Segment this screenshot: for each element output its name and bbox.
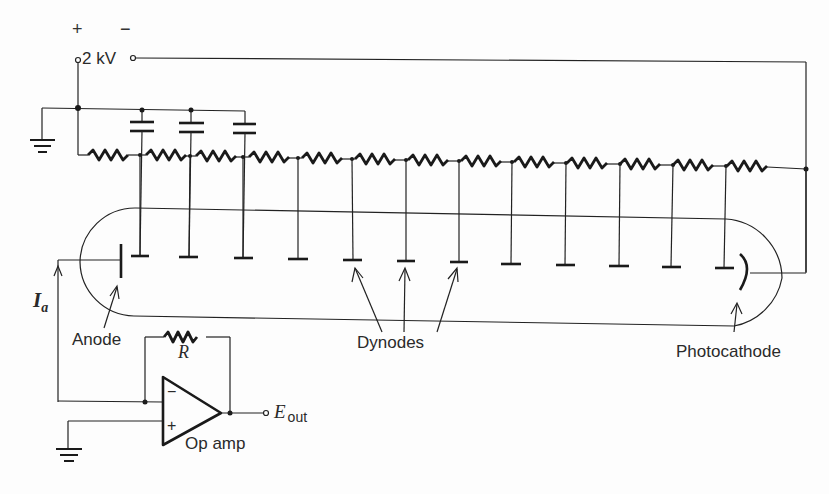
dynode-7 — [450, 159, 468, 262]
negative-terminal — [131, 56, 136, 61]
ground-symbol-top — [30, 105, 245, 152]
anode-label: Anode — [72, 331, 121, 348]
dynode-5 — [343, 157, 362, 260]
pmt-circuit-diagram — [0, 0, 829, 494]
dynodes-label: Dynodes — [357, 334, 424, 351]
inverting-input-sign: − — [167, 384, 176, 400]
op-amp-label: Op amp — [185, 435, 245, 452]
voltage-divider-chain — [78, 150, 809, 172]
photocathode — [740, 169, 806, 290]
supply-voltage-label: 2 kV — [82, 50, 116, 67]
bypass-capacitors — [130, 108, 256, 259]
dynode-6 — [397, 158, 415, 261]
anode — [54, 244, 121, 402]
dynode-11 — [662, 163, 681, 267]
dynode-8 — [501, 160, 521, 264]
photocathode-label: Photocathode — [676, 343, 781, 360]
output-voltage-label: Eout — [274, 402, 307, 421]
dynode-12 — [715, 164, 734, 268]
minus-sign: − — [120, 20, 131, 38]
pointer-arrows — [104, 268, 742, 332]
dynode-2 — [179, 154, 198, 257]
plus-sign: + — [72, 20, 83, 38]
anode-current-label: Ia — [33, 290, 48, 315]
positive-terminal — [76, 58, 81, 63]
dynode-1 — [131, 153, 149, 256]
output-terminal — [264, 411, 269, 416]
dynode-9 — [556, 161, 575, 265]
noninverting-input-sign: + — [167, 418, 176, 434]
dynode-4 — [288, 156, 308, 259]
dynode-10 — [609, 162, 629, 266]
dynode-3 — [234, 155, 253, 258]
feedback-resistor-label: R — [178, 343, 189, 361]
